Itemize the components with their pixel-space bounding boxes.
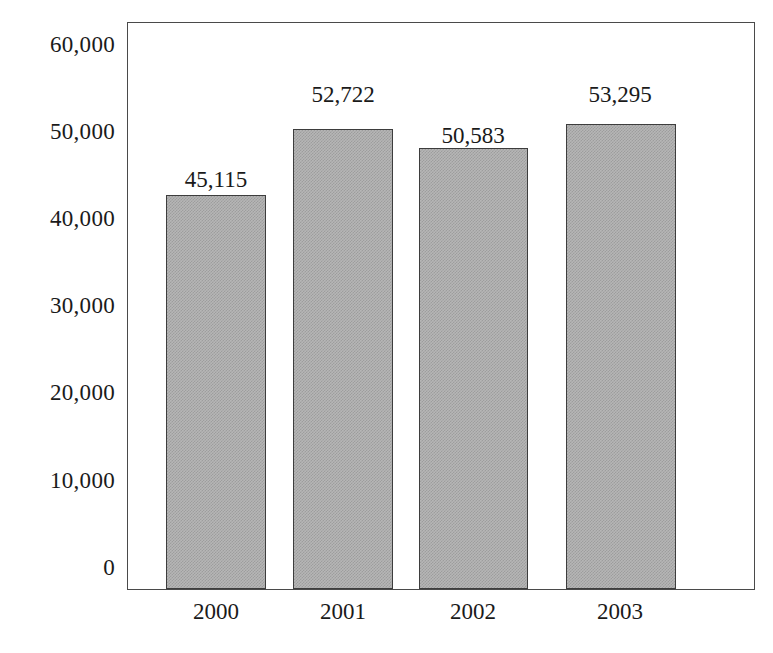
- y-axis-tick-label: 0: [3, 556, 115, 579]
- x-axis-tick-label-2001: 2001: [320, 598, 366, 626]
- y-axis-tick-label: 30,000: [3, 294, 115, 317]
- value-label-2002: 50,583: [441, 124, 504, 147]
- x-axis-tick-label-2002: 2002: [450, 598, 496, 626]
- plot-area: [127, 22, 755, 590]
- value-label-2003: 53,295: [588, 83, 651, 106]
- x-axis-tick-labels: 2000 2001 2002 2003: [127, 598, 755, 632]
- bar-2000: [166, 195, 266, 589]
- y-axis-tick-labels: 60,000 50,000 40,000 30,000 20,000 10,00…: [0, 0, 115, 653]
- y-axis-tick-label: 60,000: [3, 33, 115, 56]
- x-axis-tick-label-2000: 2000: [193, 598, 239, 626]
- bar-chart: 60,000 50,000 40,000 30,000 20,000 10,00…: [0, 0, 773, 653]
- y-axis-tick-label: 50,000: [3, 120, 115, 143]
- x-axis-tick-label-2003: 2003: [597, 598, 643, 626]
- bar-2003: [566, 124, 676, 589]
- y-axis-tick-label: 40,000: [3, 207, 115, 230]
- y-axis-tick-label: 10,000: [3, 469, 115, 492]
- y-axis-tick-label: 20,000: [3, 381, 115, 404]
- bar-2002: [419, 148, 528, 589]
- value-label-2000: 45,115: [185, 168, 247, 191]
- bar-2001: [293, 129, 393, 589]
- value-label-2001: 52,722: [311, 83, 374, 106]
